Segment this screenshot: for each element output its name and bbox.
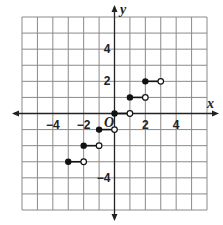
x-tick-label: 2 [142,118,149,132]
closed-endpoint [96,127,101,132]
x-axis-right-arrow-icon [212,111,219,117]
open-endpoint [96,143,102,149]
closed-endpoint [81,143,86,148]
open-endpoint [143,95,149,101]
open-endpoint [81,159,87,165]
step-function-graph: −4−22442−4 x y O [0,0,223,225]
x-tick-label: −2 [77,118,91,132]
y-axis-up-arrow-icon [112,5,118,12]
y-tick-label: 2 [104,74,111,88]
open-endpoint [158,79,164,85]
y-axis-label: y [118,2,127,17]
y-tick-label: 4 [104,42,111,56]
closed-endpoint [127,95,132,100]
y-tick-label: −4 [97,171,111,185]
x-tick-label: 4 [173,118,180,132]
x-tick-label: −4 [46,118,60,132]
closed-endpoint [66,159,71,164]
x-axis-left-arrow-icon [12,111,19,117]
open-endpoint [127,111,133,117]
closed-endpoint [143,79,148,84]
origin-label: O [104,115,114,130]
y-axis-down-arrow-icon [112,214,118,221]
x-axis-label: x [206,96,214,111]
